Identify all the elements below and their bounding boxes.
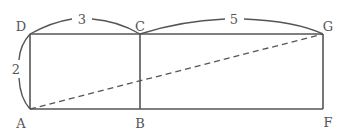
arc-AD-top [19, 34, 30, 60]
geometry-diagram: 3 5 2 D C G A B F [0, 0, 345, 131]
label-C: C [135, 19, 145, 34]
label-A: A [15, 116, 26, 131]
label-G: G [323, 19, 333, 34]
arc-CG-left [140, 19, 225, 34]
arc-DC-right [92, 19, 140, 34]
diagonal-AG-dashed [30, 34, 323, 109]
arc-CG-right [244, 19, 323, 34]
arc-AD-bottom [19, 78, 30, 109]
measure-DC: 3 [78, 12, 86, 27]
arc-DC [30, 19, 72, 34]
measure-arcs [19, 19, 323, 109]
measure-CG: 5 [230, 12, 238, 27]
label-D: D [16, 19, 26, 34]
label-F: F [323, 115, 332, 130]
measure-AD: 2 [12, 62, 20, 77]
label-B: B [135, 116, 145, 131]
